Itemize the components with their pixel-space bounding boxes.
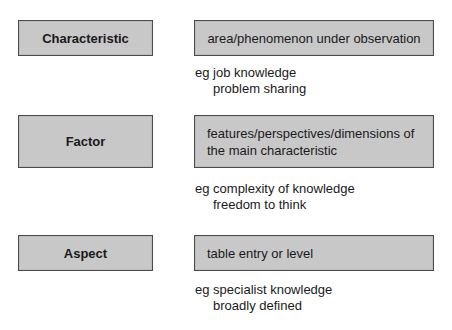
characteristic-example-line1: eg job knowledge [195, 65, 306, 81]
characteristic-label: Characteristic [42, 31, 129, 46]
characteristic-example-line2: problem sharing [195, 81, 306, 97]
characteristic-definition: area/phenomenon under observation [207, 30, 420, 47]
characteristic-term-box: Characteristic [18, 20, 153, 56]
factor-example-line1: eg complexity of knowledge [195, 181, 355, 197]
factor-example: eg complexity of knowledge freedom to th… [195, 181, 355, 213]
aspect-example-line2: broadly defined [195, 298, 332, 314]
aspect-label: Aspect [64, 246, 107, 261]
factor-term-box: Factor [18, 115, 153, 168]
aspect-definition: table entry or level [207, 245, 313, 262]
factor-example-line2: freedom to think [195, 197, 355, 213]
characteristic-example: eg job knowledge problem sharing [195, 65, 306, 97]
factor-definition-line2: the main characteristic [207, 142, 337, 159]
aspect-example: eg specialist knowledge broadly defined [195, 282, 332, 314]
aspect-term-box: Aspect [18, 235, 153, 271]
factor-label: Factor [66, 134, 106, 149]
factor-definition-line1: features/perspectives/dimensions of [207, 125, 414, 142]
factor-definition-box: features/perspectives/dimensions of the … [194, 115, 434, 168]
aspect-definition-box: table entry or level [194, 235, 434, 271]
aspect-example-line1: eg specialist knowledge [195, 282, 332, 298]
characteristic-definition-box: area/phenomenon under observation [194, 20, 434, 56]
